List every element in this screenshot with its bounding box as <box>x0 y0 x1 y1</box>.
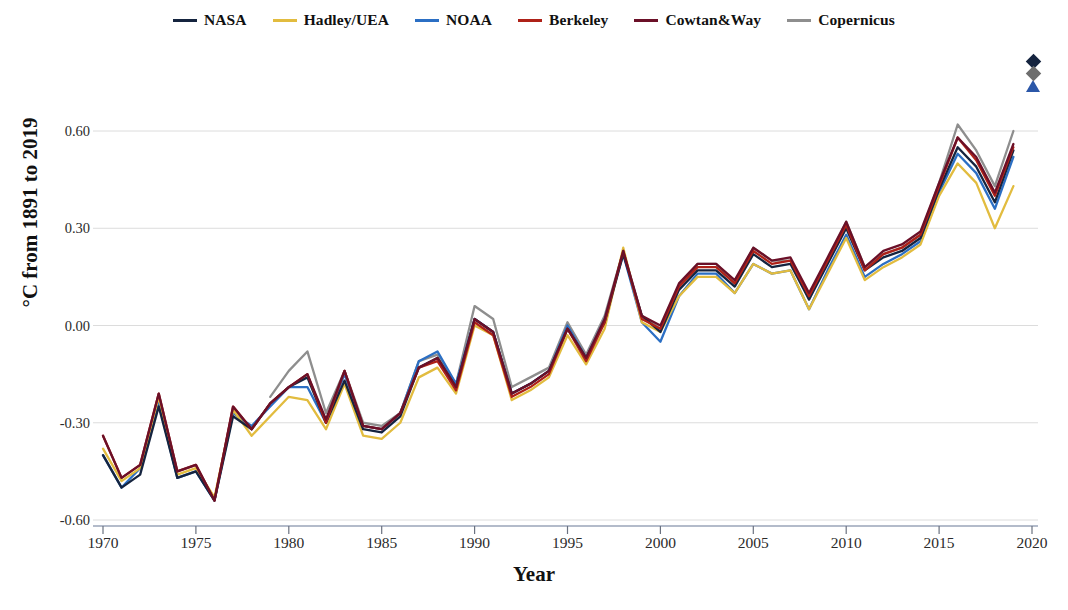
series-lines <box>103 125 1013 501</box>
axis-lines <box>93 526 1038 534</box>
series-line-hadley-uea <box>103 163 1013 497</box>
series-line-berkeley <box>103 137 1013 500</box>
climate-anomaly-chart: NASA Hadley/UEA NOAA Berkeley Cowtan&Way… <box>0 0 1068 610</box>
series-line-nasa <box>103 147 1013 500</box>
series-line-noaa <box>103 154 1013 501</box>
series-line-cowtan-way <box>103 137 1013 500</box>
plot-area <box>0 0 1068 610</box>
series-line-copernicus <box>270 125 1013 426</box>
